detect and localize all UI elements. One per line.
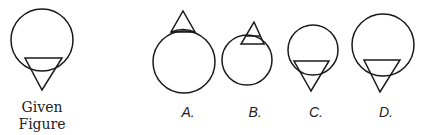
option-a-figure[interactable] xyxy=(153,11,215,93)
option-b-circle xyxy=(222,35,272,85)
option-d-circle xyxy=(352,14,414,76)
given-figure-label: Given Figure xyxy=(12,99,72,133)
given-label-line2: Figure xyxy=(12,116,72,133)
option-a-label[interactable]: A. xyxy=(173,103,203,121)
given-circle xyxy=(11,9,73,71)
option-b-label[interactable]: B. xyxy=(240,103,270,121)
given-triangle xyxy=(25,58,62,90)
option-c-label[interactable]: C. xyxy=(301,103,331,121)
option-a-circle xyxy=(153,31,215,93)
given-figure xyxy=(11,9,73,90)
option-c-triangle xyxy=(294,61,329,91)
option-c-circle xyxy=(288,25,338,75)
option-d-figure[interactable] xyxy=(352,14,414,92)
option-c-figure[interactable] xyxy=(288,25,338,91)
given-label-line1: Given xyxy=(12,99,72,116)
option-b-figure[interactable] xyxy=(222,22,272,85)
option-b-triangle xyxy=(241,22,264,44)
option-d-label[interactable]: D. xyxy=(371,103,401,121)
